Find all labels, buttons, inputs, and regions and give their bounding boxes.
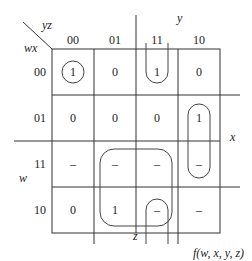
cell: 1 (112, 203, 118, 217)
col-header-10: 10 (193, 33, 205, 47)
row-header-00: 00 (34, 65, 46, 79)
function-label: f(w, x, y, z) (193, 246, 244, 260)
col-header-11: 11 (151, 33, 163, 47)
cell: 0 (112, 65, 118, 79)
cell: 0 (112, 111, 118, 125)
cell: – (153, 203, 161, 217)
cell: – (69, 157, 77, 171)
var-label-z: z (132, 229, 138, 243)
cell: 1 (196, 111, 202, 125)
cell: 0 (70, 111, 76, 125)
cell: 0 (154, 111, 160, 125)
cell: – (195, 203, 203, 217)
cell: 1 (70, 65, 76, 79)
cell: 0 (196, 65, 202, 79)
var-label-w: w (19, 171, 27, 185)
cell: – (195, 157, 203, 171)
cell: – (153, 157, 161, 171)
cell: 0 (70, 203, 76, 217)
karnaugh-map: yz wx 00 01 11 10 00 01 11 10 y x w z f(… (0, 0, 252, 261)
row-header-01: 01 (34, 111, 46, 125)
var-label-x: x (229, 130, 236, 144)
col-header-00: 00 (67, 33, 79, 47)
row-vars-label: wx (24, 41, 38, 55)
var-label-y: y (176, 11, 183, 25)
col-header-01: 01 (109, 33, 121, 47)
row-header-10: 10 (34, 203, 46, 217)
cell: 1 (154, 65, 160, 79)
row-header-11: 11 (34, 157, 46, 171)
grid (14, 15, 240, 244)
col-vars-label: yz (41, 18, 52, 32)
cell: – (111, 157, 119, 171)
